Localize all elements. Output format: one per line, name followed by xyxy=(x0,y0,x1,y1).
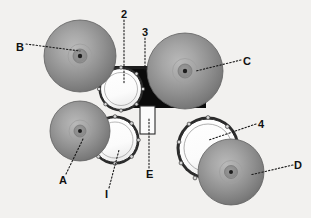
label-b: B xyxy=(16,42,24,53)
cymbal-d[interactable] xyxy=(198,139,264,205)
label-3: 3 xyxy=(142,27,148,38)
label-c: C xyxy=(243,56,251,67)
diagram-svg xyxy=(0,0,311,218)
cymbal-a[interactable] xyxy=(50,101,110,161)
label-4: 4 xyxy=(258,119,264,130)
label-d: D xyxy=(294,160,302,171)
cymbal-b[interactable] xyxy=(44,20,116,92)
label-1: I xyxy=(105,189,108,200)
pedestal-post xyxy=(140,106,155,134)
label-a: A xyxy=(59,175,67,186)
label-2: 2 xyxy=(121,9,127,20)
figure-canvas: B 2 3 C 4 D A I E xyxy=(0,0,311,218)
label-e: E xyxy=(146,169,153,180)
cymbal-c[interactable] xyxy=(147,33,223,109)
